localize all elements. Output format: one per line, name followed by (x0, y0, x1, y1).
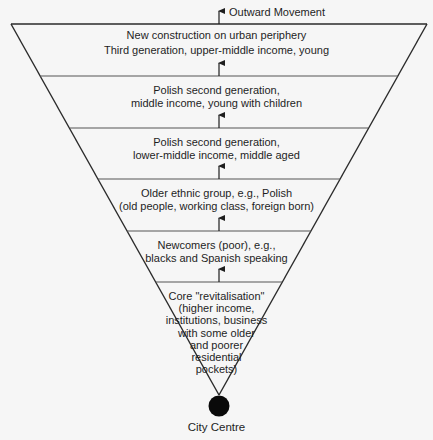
zone-5-label: Newcomers (poor), e.g., blacks and Spani… (0, 239, 433, 264)
city-centre-dot-icon (209, 396, 230, 417)
outward-movement-label: Outward Movement (229, 6, 325, 18)
zone-6-core-label: Core "revitalisation" (higher income, in… (0, 290, 433, 375)
zone-4-label: Older ethnic group, e.g., Polish (old pe… (0, 187, 433, 212)
zone-2-label: Polish second generation, middle income,… (0, 84, 433, 109)
zone-3-label: Polish second generation, lower-middle i… (0, 136, 433, 161)
zone-1-label: New construction on urban periphery (0, 29, 433, 42)
city-centre-label: City Centre (0, 421, 433, 434)
zone-1-sublabel: Third generation, upper-middle income, y… (0, 44, 433, 57)
